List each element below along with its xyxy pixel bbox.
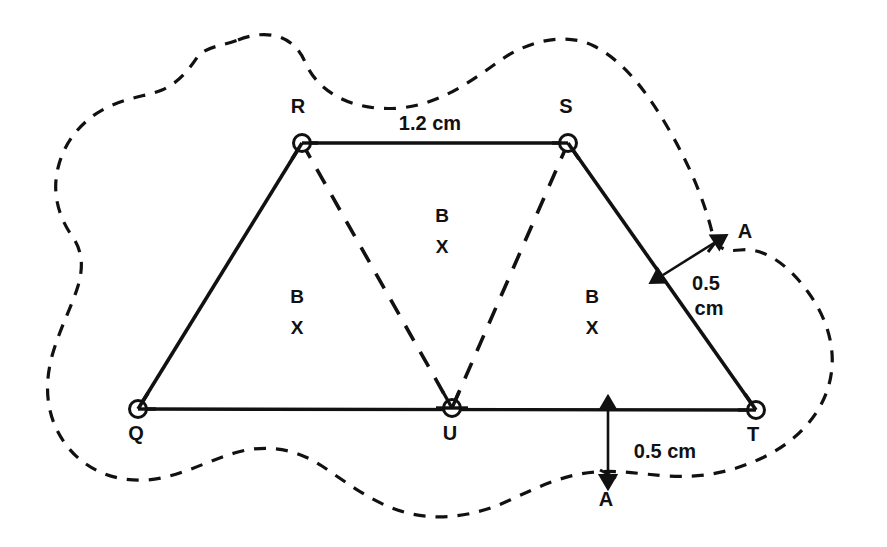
vertex-label-R: R (291, 95, 306, 117)
point-label-A-right: A (738, 220, 752, 242)
dimension-label-right-line2: cm (695, 297, 724, 319)
edge-S-U (452, 143, 568, 408)
geometry-figure: Q R S T U B X B X B X 1.2 cm 0.5 cm 0.5 … (0, 0, 887, 547)
region-label-left-b: B (290, 286, 304, 307)
vertex-label-U: U (443, 422, 457, 444)
region-label-middle-b: B (435, 205, 449, 226)
edge-Q-R (138, 143, 302, 409)
vertex-label-T: T (747, 423, 759, 445)
dimension-label-bottom: 0.5 cm (634, 440, 696, 462)
region-label-middle-x: X (436, 236, 449, 257)
region-label-right-x: X (586, 317, 599, 338)
region-label-right-b: B (585, 286, 599, 307)
vertex-label-S: S (559, 95, 572, 117)
dimension-label-right-line1: 0.5 (692, 272, 720, 294)
dimension-arrow-right (663, 243, 714, 275)
edge-S-T (568, 143, 756, 410)
point-label-A-bottom: A (599, 488, 613, 510)
region-label-left-x: X (291, 317, 304, 338)
dimension-label-top: 1.2 cm (399, 112, 461, 134)
edge-R-U (302, 143, 452, 408)
vertex-label-Q: Q (128, 422, 144, 444)
diagram-canvas: Q R S T U B X B X B X 1.2 cm 0.5 cm 0.5 … (0, 0, 887, 547)
